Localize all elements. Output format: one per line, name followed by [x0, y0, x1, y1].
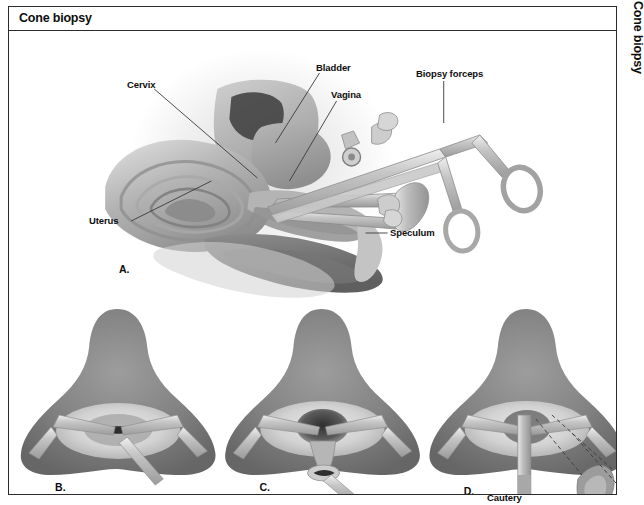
svg-text:C.: C. [259, 481, 270, 493]
panel-d-illustration: D. [429, 309, 616, 494]
illustration-svg: B. C. [9, 31, 616, 494]
callout-biopsy-forceps: Biopsy forceps [416, 68, 483, 79]
svg-text:B.: B. [55, 481, 66, 493]
figure-title-bar: Cone biopsy [9, 7, 616, 31]
page-edge-tab-label: Cone biopsy [631, 1, 644, 125]
callout-cautery: Cautery [487, 492, 522, 503]
figure-page: Cone biopsy Cone biopsy [0, 0, 644, 505]
panel-a-illustration [105, 49, 546, 298]
figure-title: Cone biopsy [19, 11, 92, 25]
callout-bladder: Bladder [316, 62, 351, 73]
illustration-canvas: B. C. [9, 31, 616, 494]
panel-label-a: A. [119, 263, 130, 275]
panel-c-illustration: C. [225, 309, 420, 494]
callout-vagina: Vagina [331, 89, 361, 100]
page-edge-tab: Cone biopsy [620, 4, 642, 134]
callout-speculum: Speculum [390, 227, 435, 238]
panel-b-illustration: B. [21, 309, 216, 493]
callout-uterus: Uterus [89, 215, 119, 226]
svg-text:D.: D. [464, 485, 475, 494]
figure-box: Cone biopsy [8, 6, 617, 495]
callout-cervix: Cervix [127, 79, 155, 90]
